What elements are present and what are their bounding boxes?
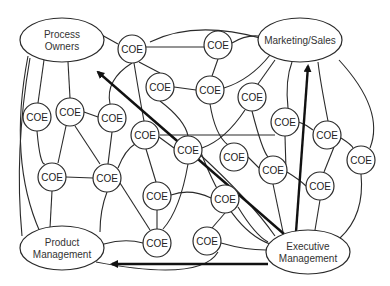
- coe-node: COE: [131, 121, 159, 149]
- coe-label: COE: [41, 172, 63, 183]
- coe-node: COE: [193, 227, 221, 255]
- coe-node: COE: [174, 136, 202, 164]
- stakeholder-label: Product: [45, 237, 80, 248]
- coe-label: COE: [350, 155, 372, 166]
- coe-node: COE: [238, 83, 266, 111]
- stakeholder-label: Owners: [45, 41, 79, 52]
- coe-label: COE: [196, 236, 218, 247]
- coe-node: COE: [211, 185, 239, 213]
- coe-label: COE: [309, 181, 331, 192]
- coe-label: COE: [241, 92, 263, 103]
- coe-label: COE: [262, 165, 284, 176]
- coe-node: COE: [313, 121, 341, 149]
- stakeholder-label: Process: [44, 29, 80, 40]
- coe-node: COE: [347, 146, 375, 174]
- coe-node: COE: [306, 172, 334, 200]
- coe-label: COE: [214, 194, 236, 205]
- coe-network-diagram: ProcessOwnersMarketing/SalesProductManag…: [0, 0, 390, 286]
- coe-label: COE: [121, 44, 143, 55]
- stakeholder-po: ProcessOwners: [20, 18, 104, 62]
- coe-label: COE: [274, 117, 296, 128]
- stakeholder-label: Executive: [286, 241, 330, 252]
- coe-label: COE: [316, 130, 338, 141]
- stakeholder-ms: Marketing/Sales: [258, 18, 342, 62]
- coe-node: COE: [23, 103, 51, 131]
- coe-node: COE: [271, 108, 299, 136]
- coe-label: COE: [96, 173, 118, 184]
- coe-node: COE: [259, 156, 287, 184]
- coe-node: COE: [204, 31, 232, 59]
- arrow-to-marketing-sales: [296, 66, 308, 232]
- coe-label: COE: [149, 82, 171, 93]
- coe-node: COE: [143, 182, 171, 210]
- coe-node: COE: [93, 164, 121, 192]
- stakeholder-em: ExecutiveManagement: [266, 230, 350, 274]
- stakeholder-label: Marketing/Sales: [264, 35, 336, 46]
- coe-label: COE: [199, 85, 221, 96]
- coe-label: COE: [59, 107, 81, 118]
- coe-node: COE: [56, 98, 84, 126]
- coe-label: COE: [146, 191, 168, 202]
- stakeholder-label: Management: [279, 253, 338, 264]
- coe-nodes: COECOECOECOECOECOECOECOECOECOECOECOECOEC…: [23, 31, 375, 257]
- coe-node: COE: [196, 76, 224, 104]
- coe-label: COE: [223, 152, 245, 163]
- coe-label: COE: [101, 113, 123, 124]
- coe-label: COE: [134, 130, 156, 141]
- coe-label: COE: [207, 40, 229, 51]
- coe-node: COE: [220, 143, 248, 171]
- coe-node: COE: [98, 104, 126, 132]
- stakeholder-pm: ProductManagement: [20, 226, 104, 270]
- coe-node: COE: [118, 35, 146, 63]
- coe-node: COE: [143, 229, 171, 257]
- coe-node: COE: [146, 73, 174, 101]
- stakeholder-label: Management: [33, 249, 92, 260]
- coe-label: COE: [177, 145, 199, 156]
- coe-label: COE: [146, 238, 168, 249]
- coe-node: COE: [38, 163, 66, 191]
- coe-label: COE: [26, 112, 48, 123]
